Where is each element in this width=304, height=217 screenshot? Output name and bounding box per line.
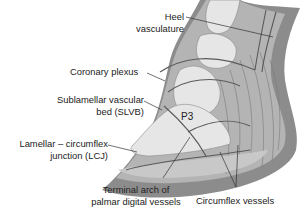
- label-coronary-plexus: Coronary plexus: [70, 66, 138, 78]
- label-p3: P3: [181, 111, 193, 123]
- label-slvb: Sublamellar vascular bed (SLVB): [30, 94, 144, 117]
- label-circumflex-vessels: Circumflex vessels: [196, 195, 274, 207]
- label-lcj: Lamellar – circumflex junction (LCJ): [2, 138, 108, 161]
- hoof-vasculature-diagram: Heel vasculature Coronary plexus Sublame…: [0, 0, 304, 217]
- label-heel-vasculature: Heel vasculature: [128, 11, 184, 34]
- label-terminal-arch: Terminal arch of palmar digital vessels: [84, 184, 188, 207]
